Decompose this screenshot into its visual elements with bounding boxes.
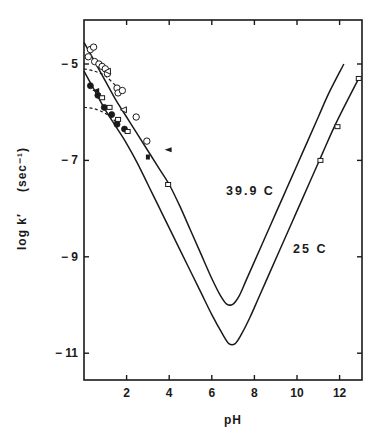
x-tick-label: 2 [123, 386, 130, 400]
x-tick-label: 8 [251, 386, 258, 400]
filled-circle-marker [87, 83, 93, 89]
y-tick-label: − 5 [61, 57, 78, 71]
filled-circle-marker [109, 112, 115, 118]
open-circle-marker [144, 138, 150, 144]
open-circle-marker [133, 114, 139, 120]
data-curves [84, 42, 359, 344]
x-axis-title: pH [224, 413, 242, 427]
y-axis-title: log k′ (sec⁻¹) [15, 147, 29, 250]
filled-circle-marker [101, 104, 107, 110]
x-tick-label: 12 [333, 386, 347, 400]
y-axis-title-unit: (sec⁻¹) [15, 147, 29, 192]
open-square-marker [125, 129, 130, 133]
open-circle-marker [119, 87, 125, 93]
y-axis-title-main: log k′ [15, 213, 29, 250]
x-tick-label: 10 [290, 386, 304, 400]
open-square-marker [100, 96, 105, 100]
y-tick-label: − 9 [61, 250, 78, 264]
open-square-marker [107, 105, 112, 109]
filled-square-marker [146, 155, 150, 160]
open-square-marker [116, 117, 121, 121]
open-circle-marker [85, 54, 91, 60]
chart-canvas: 24681012− 5− 7− 9− 11 39.9 C 25 C pH log… [0, 0, 381, 437]
axis-ticks: 24681012− 5− 7− 9− 11 [55, 20, 362, 400]
curve-label-25c: 25 C [293, 242, 327, 256]
curve-39-9-c [84, 42, 344, 305]
x-tick-label: 4 [166, 386, 173, 400]
open-square-marker [335, 125, 340, 129]
filled-triangle-marker [165, 147, 172, 152]
y-tick-label: − 11 [55, 346, 78, 360]
open-circle-marker [90, 44, 96, 50]
plot-border [84, 20, 362, 380]
curve-label-39-9c: 39.9 C [226, 184, 275, 198]
filled-circle-marker [114, 121, 120, 127]
open-square-marker [318, 158, 323, 162]
plot-frame [84, 20, 362, 380]
x-tick-label: 6 [208, 386, 215, 400]
y-tick-label: − 7 [61, 153, 78, 167]
open-square-marker [356, 76, 361, 80]
open-square-marker [166, 183, 171, 187]
